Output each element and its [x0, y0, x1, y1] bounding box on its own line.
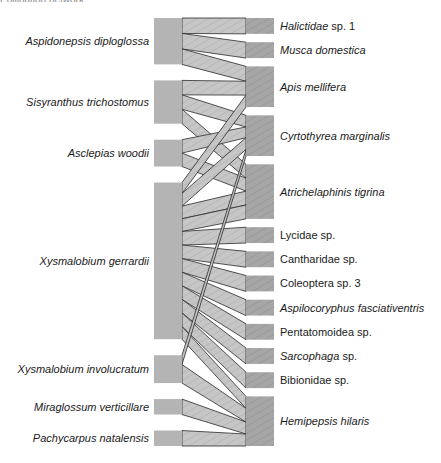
- pollinator-box: [246, 18, 274, 34]
- link-band: [182, 18, 246, 34]
- pollinators-layer: Halictidae sp. 1Musca domesticaApis mell…: [246, 18, 425, 446]
- plant-box: [154, 140, 182, 167]
- pollinator-label: Lycidae sp.: [280, 229, 335, 241]
- pollinator-box: [246, 251, 274, 267]
- pollinator-label: Hemipepsis hilaris: [280, 415, 370, 427]
- pollinator-label: Cyrtothyrea marginalis: [280, 130, 391, 142]
- pollinator-box: [246, 300, 274, 316]
- plant-box: [154, 80, 182, 123]
- plant-box: [154, 183, 182, 340]
- plant-label: Miraglossum verticillare: [34, 401, 149, 413]
- plant-box: [154, 355, 182, 383]
- pollinator-label: Bibionidae sp.: [280, 374, 349, 386]
- link-band: [182, 80, 246, 95]
- pollinator-label: Atrichelaphinis tigrina: [279, 186, 385, 198]
- pollinator-box: [246, 276, 274, 292]
- plant-label: Sisyranthus trichostomus: [26, 96, 149, 108]
- pollinator-box: [246, 372, 274, 388]
- plants-layer: Aspidonepsis diploglossaSisyranthus tric…: [17, 18, 182, 446]
- pollinator-box: [246, 396, 274, 446]
- pollinator-box: [246, 348, 274, 364]
- pollinator-label: Pentatomoidea sp.: [280, 326, 372, 338]
- pollinator-label: Cantharidae sp.: [280, 253, 358, 265]
- pollinator-label: Halictidae sp. 1: [280, 20, 355, 32]
- links-layer: [182, 18, 246, 446]
- pollinator-box: [246, 164, 274, 219]
- plant-label: Aspidonepsis diploglossa: [24, 35, 149, 47]
- plant-label: Pachycarpus natalensis: [33, 432, 150, 444]
- plant-box: [154, 431, 182, 446]
- link-band: [182, 431, 246, 446]
- plant-box: [154, 18, 182, 64]
- plant-label: Xysmalobium involucratum: [17, 363, 149, 375]
- bipartite-network: Aspidonepsis diploglossaSisyranthus tric…: [0, 0, 441, 463]
- pollinator-box: [246, 66, 274, 107]
- plant-label: Xysmalobium gerrardii: [39, 255, 150, 267]
- pollinator-label: Musca domestica: [280, 44, 366, 56]
- pollinator-box: [246, 324, 274, 340]
- pollinator-label: Aspilocoryphus fasciativentris: [279, 302, 425, 314]
- plant-label: Asclepias woodii: [67, 147, 150, 159]
- pollinator-label: Sarcophaga sp.: [280, 350, 357, 362]
- pollinator-label: Coleoptera sp. 3: [280, 277, 361, 289]
- plant-box: [154, 399, 182, 414]
- pollinator-box: [246, 115, 274, 156]
- pollinator-box: [246, 42, 274, 58]
- pollinator-label: Apis mellifera: [279, 81, 346, 93]
- pollinator-box: [246, 227, 274, 243]
